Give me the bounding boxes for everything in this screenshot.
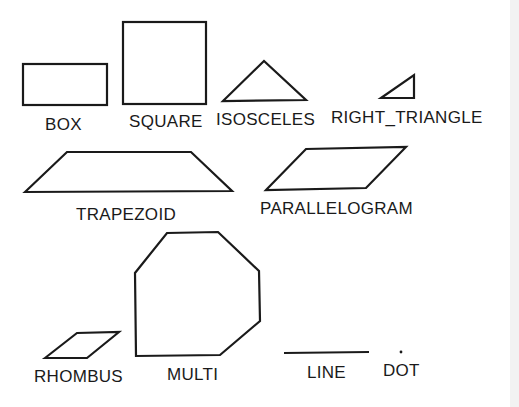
isosceles-label: ISOSCELES [216, 110, 315, 129]
line-shape [284, 352, 369, 353]
square-label: SQUARE [129, 112, 203, 131]
rhombus-label: RHOMBUS [34, 367, 123, 386]
dot-label: DOT [383, 361, 420, 380]
box-shape [23, 64, 107, 105]
shapes-diagram: BOX SQUARE ISOSCELES RIGHT_TRIANGLE TRAP… [0, 0, 519, 407]
trapezoid-shape [25, 152, 232, 192]
trapezoid-label: TRAPEZOID [76, 205, 176, 224]
parallelogram-label: PARALLELOGRAM [260, 199, 413, 218]
scan-edge [510, 0, 519, 407]
box-label: BOX [45, 115, 82, 134]
right-triangle-shape [381, 75, 414, 98]
multi-label: MULTI [167, 365, 218, 384]
parallelogram-shape [266, 147, 406, 190]
rhombus-shape [45, 332, 119, 358]
isosceles-shape [223, 61, 306, 101]
right-triangle-label: RIGHT_TRIANGLE [331, 108, 483, 127]
dot-shape [400, 351, 403, 354]
multi-shape [135, 232, 260, 356]
line-label: LINE [307, 363, 346, 382]
square-shape [123, 22, 206, 104]
